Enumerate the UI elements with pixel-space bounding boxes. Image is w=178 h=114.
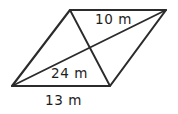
parallelogram-diagram [0,0,178,114]
top-edge-length-label: 10 m [95,13,132,27]
long-diagonal-length-label: 24 m [51,67,88,81]
bottom-edge-length-label: 13 m [45,94,82,108]
geometry-figure: 10 m 24 m 13 m [0,0,178,114]
